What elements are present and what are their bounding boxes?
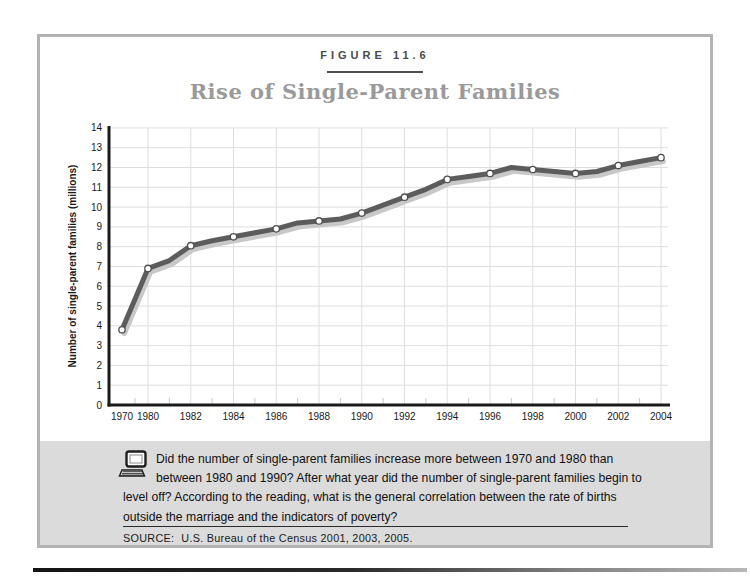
data-point-marker xyxy=(273,226,279,232)
chart-grid xyxy=(109,128,668,405)
svg-text:1982: 1982 xyxy=(180,411,203,422)
source-label: SOURCE: xyxy=(123,532,174,544)
data-point-marker xyxy=(145,265,151,271)
svg-text:13: 13 xyxy=(91,142,103,153)
data-point-marker xyxy=(487,170,493,176)
svg-text:1970: 1970 xyxy=(111,411,134,422)
data-point-marker xyxy=(444,176,450,182)
x-axis-minor-ticks xyxy=(135,398,640,404)
svg-text:1980: 1980 xyxy=(137,411,160,422)
svg-text:2: 2 xyxy=(96,360,102,371)
svg-text:9: 9 xyxy=(96,221,102,232)
data-point-marker xyxy=(530,166,536,172)
data-point-marker xyxy=(359,210,365,216)
figure-page: FIGURE 11.6 Rise of Single-Parent Famili… xyxy=(0,0,750,580)
svg-text:1996: 1996 xyxy=(479,411,502,422)
svg-text:1986: 1986 xyxy=(265,411,288,422)
data-point-marker xyxy=(316,218,322,224)
svg-text:5: 5 xyxy=(96,301,102,312)
x-axis-labels: 1970198019821984198619881990199219941996… xyxy=(111,411,673,422)
source-citation: U.S. Bureau of the Census 2001, 2003, 20… xyxy=(181,532,412,544)
data-line xyxy=(122,158,661,330)
svg-text:4: 4 xyxy=(96,320,102,331)
svg-text:1998: 1998 xyxy=(522,411,545,422)
source-text: SOURCE:U.S. Bureau of the Census 2001, 2… xyxy=(123,532,413,544)
data-point-marker xyxy=(572,170,578,176)
y-axis-title: Number of single-parent families (millio… xyxy=(67,165,78,368)
svg-text:Number of single-parent famili: Number of single-parent families (millio… xyxy=(67,165,78,368)
question-text: Did the number of single-parent families… xyxy=(123,450,657,527)
data-point-marker xyxy=(188,242,194,248)
svg-text:12: 12 xyxy=(91,162,103,173)
svg-text:14: 14 xyxy=(91,122,103,133)
svg-text:1990: 1990 xyxy=(351,411,374,422)
question-line: Did the number of single-parent families… xyxy=(123,450,657,469)
y-axis-labels: 01234567891011121314 xyxy=(91,122,103,410)
svg-text:2000: 2000 xyxy=(564,411,587,422)
svg-text:10: 10 xyxy=(91,202,103,213)
page-bottom-rule xyxy=(33,568,747,572)
svg-text:1: 1 xyxy=(96,380,102,391)
svg-text:8: 8 xyxy=(96,241,102,252)
data-point-marker xyxy=(401,194,407,200)
data-point-marker xyxy=(230,234,236,240)
svg-text:0: 0 xyxy=(96,400,102,411)
data-point-marker xyxy=(658,154,664,160)
svg-text:1994: 1994 xyxy=(436,411,459,422)
source-divider xyxy=(123,526,628,527)
svg-text:2002: 2002 xyxy=(607,411,630,422)
question-line: level off? According to the reading, wha… xyxy=(123,488,657,507)
svg-text:1984: 1984 xyxy=(222,411,245,422)
question-line: between 1980 and 1990? After what year d… xyxy=(123,469,657,488)
svg-text:3: 3 xyxy=(96,340,102,351)
svg-text:2004: 2004 xyxy=(650,411,673,422)
svg-text:11: 11 xyxy=(92,182,103,193)
question-line: outside the marriage and the indicators … xyxy=(123,508,657,527)
data-point-marker xyxy=(615,162,621,168)
svg-text:1992: 1992 xyxy=(393,411,416,422)
svg-text:6: 6 xyxy=(96,281,102,292)
svg-text:7: 7 xyxy=(96,261,102,272)
svg-text:1988: 1988 xyxy=(308,411,331,422)
data-point-marker xyxy=(119,327,125,333)
